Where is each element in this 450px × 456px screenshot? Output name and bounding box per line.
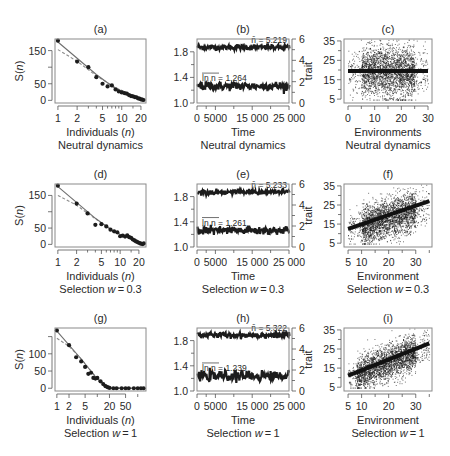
y-right-tick-label: 0 (299, 241, 305, 253)
panel-caption: Selection w = 1 (351, 427, 424, 439)
x-axis-title: Individuals (n) (66, 126, 135, 138)
panel-label: (c) (382, 23, 395, 35)
data-point (114, 386, 118, 390)
data-point (93, 223, 97, 227)
x-tick-label: 2 (66, 400, 72, 412)
y-tick-label: 5 (329, 381, 335, 393)
data-point (142, 386, 146, 390)
panel-b: (b)n̄ = 5.219ln n = 1.2640500015 00025 0… (173, 23, 305, 151)
panel-label: (b) (236, 23, 249, 35)
x-axis: 1251020 (55, 250, 145, 268)
data-point (75, 59, 79, 63)
data-point (95, 376, 99, 380)
y-tick-label: 1.8 (173, 335, 188, 347)
x-axis-title: Individuals (n) (66, 414, 135, 426)
y-tick-label: 1.8 (173, 46, 188, 58)
y-tick-label: 5 (329, 237, 335, 249)
data-point (89, 371, 93, 375)
x-tick-label: 20 (135, 112, 147, 124)
x-tick-label: 5 (98, 256, 104, 268)
y-axis: 050150 (28, 45, 52, 107)
y-right-tick-label: 6 (299, 178, 305, 190)
panel-label: (f) (383, 168, 393, 180)
x-axis: 0500015 00025 000 (194, 394, 305, 412)
x-axis-title: Environment (357, 414, 419, 426)
data-point (142, 241, 146, 245)
x-tick-label: 1 (55, 112, 61, 124)
x-tick-label: 25 000 (273, 400, 305, 412)
y-tick-label: 100 (28, 348, 46, 360)
data-layer (55, 328, 146, 390)
annotation-mean-n: n̄ = 5.219 (251, 35, 287, 45)
x-tick-label: 20 (133, 256, 145, 268)
data-layer (348, 185, 430, 244)
panel-caption: Neutral dynamics (58, 139, 143, 151)
annotation-mean-ln-n: ln n = 1.261 (202, 218, 247, 228)
x-axis-title: Time (231, 414, 255, 426)
data-layer (198, 331, 290, 383)
data-point (100, 82, 104, 86)
y-tick-label: 1.8 (173, 191, 188, 203)
panel-caption: Selection w = 0.3 (202, 283, 284, 295)
data-point (105, 84, 109, 88)
panel-i: (i)5102030EnvironmentSelection w = 15152… (302, 312, 432, 439)
panel-label: (d) (94, 168, 107, 180)
x-axis: 5102030 (345, 394, 429, 412)
x-tick-label: 20 (104, 400, 116, 412)
data-point (127, 386, 131, 390)
x-tick-label: 25 000 (273, 256, 305, 268)
x-tick-label: 0 (194, 112, 200, 124)
x-tick-label: 10 (356, 256, 368, 268)
panel-g: (g)1252050Individuals (n)Selection w = 1… (13, 312, 146, 439)
x-tick-label: 50 (120, 400, 132, 412)
data-point (141, 98, 145, 102)
x-axis: 1251020 (55, 106, 147, 124)
y-axis: 5152535 (323, 324, 341, 393)
y-tick-label: 1.0 (173, 97, 188, 109)
y-tick-label: 50 (34, 222, 46, 234)
x-tick-label: 30 (410, 256, 422, 268)
panel-label: (a) (94, 23, 107, 35)
panel-caption: Selection w = 1 (64, 427, 137, 439)
solid-fit-line (58, 187, 144, 245)
data-point (108, 228, 112, 232)
y-axis-title: S(n) (13, 205, 25, 226)
y-tick-label: 5 (329, 93, 335, 105)
panel-caption: Selection w = 0.3 (347, 283, 429, 295)
y-tick-label: 15 (323, 218, 335, 230)
x-tick-label: 20 (395, 112, 407, 124)
panel-f: (f)5102030EnvironmentSelection w = 0.351… (302, 168, 432, 295)
x-axis-title: Time (231, 270, 255, 282)
panel-a: (a)1251020Individuals (n)Neutral dynamic… (13, 23, 147, 151)
figure: (a)1251020Individuals (n)Neutral dynamic… (0, 0, 450, 456)
y-tick-label: 35 (323, 35, 335, 47)
data-point (85, 211, 89, 215)
y-tick-label: 35 (323, 324, 335, 336)
y-tick-label: 1.4 (173, 71, 188, 83)
y-right-tick-label: 0 (299, 385, 305, 397)
y-right-tick-label: 6 (299, 33, 305, 45)
x-tick-label: 10 (356, 400, 368, 412)
x-axis: 0500015 00025 000 (194, 106, 305, 124)
x-tick-label: 10 (369, 112, 381, 124)
annotation-mean-n: n̄ = 5.233 (251, 180, 287, 190)
solid-fit-line (58, 42, 144, 100)
y-axis: 050150 (28, 189, 52, 250)
x-tick-label: 5000 (204, 256, 228, 268)
x-axis: 1252050 (54, 394, 138, 412)
x-tick-label: 2 (74, 256, 80, 268)
y-tick-label: 15 (323, 362, 335, 374)
panel-d: (d)1251020Individuals (n)Selection w = 0… (13, 168, 146, 295)
x-tick-label: 20 (383, 256, 395, 268)
figure-canvas: (a)1251020Individuals (n)Neutral dynamic… (0, 0, 450, 456)
data-point (75, 201, 79, 205)
panel-e: (e)n̄ = 5.233ln n = 1.2610500015 00025 0… (173, 168, 305, 295)
data-point (86, 65, 90, 69)
x-axis-title: Environment (357, 270, 419, 282)
y-axis-title: S(n) (13, 349, 25, 370)
x-axis: 0102030 (345, 106, 434, 124)
data-point (94, 75, 98, 79)
y-tick-label: 50 (34, 365, 46, 377)
plot-frame (55, 39, 146, 103)
y-right-tick-label: 6 (299, 322, 305, 334)
